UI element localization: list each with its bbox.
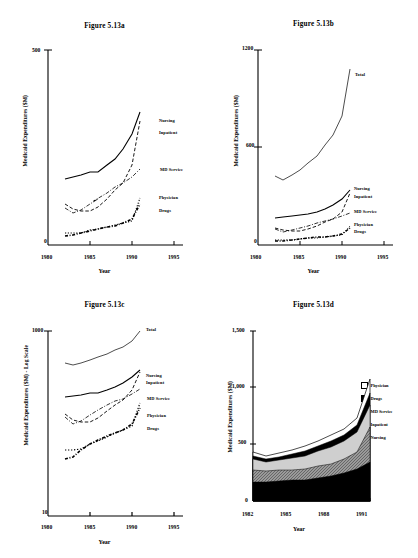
panel-figure-5-13b: Figure 5.13b Medicaid Expenditures ($M) …: [209, 0, 418, 279]
panel-b-line-total: [275, 69, 350, 180]
panel-c-line-total: [65, 331, 140, 365]
panel-b-line-inpatient: [275, 193, 350, 231]
panel-d-plot: [209, 279, 418, 558]
panel-c-line-md-service: [65, 389, 140, 424]
panel-figure-5-13a: Figure 5.13a Medicaid Expenditures ($M) …: [0, 0, 209, 279]
panel-b-plot: [209, 0, 418, 279]
panel-c-line-nursing: [65, 370, 140, 397]
panel-a-line-inpatient: [65, 121, 140, 211]
panel-figure-5-13d: Figure 5.13d Medicaid Expenditures ($M) …: [209, 279, 418, 558]
panel-figure-5-13c: Figure 5.13c Medicaid Expenditures ($M) …: [0, 279, 209, 558]
figure-page: Figure 5.13a Medicaid Expenditures ($M) …: [0, 0, 418, 558]
panel-c-plot: [0, 279, 209, 558]
panel-a-line-nursing: [65, 112, 140, 179]
panel-c-line-drugs: [65, 408, 140, 459]
panel-b-line-md-service: [275, 213, 350, 232]
panel-b-line-nursing: [275, 190, 350, 218]
panel-a-line-md-service: [65, 169, 140, 213]
panel-a-plot: [0, 0, 209, 279]
panel-a-line-drugs: [65, 204, 140, 236]
